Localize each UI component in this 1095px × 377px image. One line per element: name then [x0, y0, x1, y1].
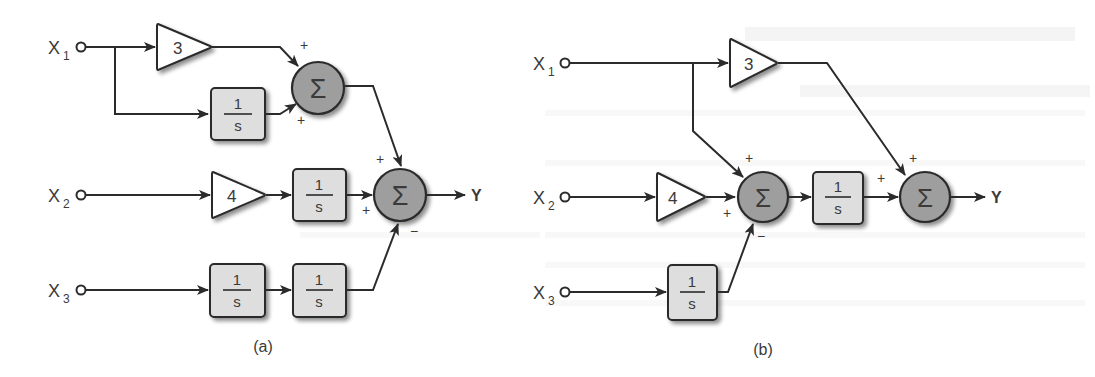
- block-diagram-figure: X 1 X 2 X 3 3 1 s: [0, 0, 1095, 377]
- svg-text:1: 1: [548, 65, 555, 79]
- integrator-numerator: 1: [315, 271, 323, 288]
- sum-symbol: Σ: [310, 74, 327, 104]
- svg-text:2: 2: [548, 199, 555, 213]
- integrator-numerator: 1: [688, 273, 696, 290]
- input-x2-label: X 2: [48, 186, 70, 211]
- input-x3-label: X 3: [533, 283, 555, 308]
- caption-a: (a): [253, 338, 273, 355]
- diagram-a: X 1 X 2 X 3 3 1 s: [48, 24, 482, 355]
- gain-value-3: 3: [744, 55, 753, 74]
- svg-text:X: X: [533, 188, 545, 208]
- sign-plus: +: [723, 205, 731, 221]
- gain-value-4: 4: [227, 187, 236, 206]
- gain-block-3: [157, 24, 211, 70]
- svg-text:2: 2: [63, 197, 70, 211]
- sign-plus: +: [300, 37, 308, 53]
- input-terminal-x1: [561, 59, 570, 68]
- sum-symbol: Σ: [917, 183, 933, 213]
- sign-plus: +: [877, 170, 885, 186]
- sign-plus: +: [745, 150, 753, 166]
- svg-text:1: 1: [63, 49, 70, 63]
- wire-int-sum1: [266, 104, 296, 114]
- gain-block-4: [657, 173, 705, 221]
- gain-value-4: 4: [668, 189, 677, 208]
- gain-block-3: [730, 39, 777, 87]
- integrator-denominator: s: [688, 295, 696, 312]
- wire-gain3-sum1: [211, 47, 298, 66]
- integrator-numerator: 1: [315, 176, 323, 193]
- sum-symbol: Σ: [392, 181, 409, 211]
- integrator-numerator: 1: [234, 95, 242, 112]
- integrator-numerator: 1: [834, 178, 842, 195]
- integrator-denominator: s: [834, 200, 842, 217]
- sign-plus: +: [376, 151, 384, 167]
- input-x3-label: X 3: [48, 281, 70, 306]
- sign-plus: +: [362, 202, 370, 218]
- integrator-denominator: s: [315, 293, 323, 310]
- wire-gain3-sum2: [778, 63, 905, 175]
- sign-plus: +: [297, 112, 305, 128]
- input-x1-label: X 1: [48, 38, 70, 63]
- input-terminal-x1: [77, 43, 86, 52]
- sign-plus: +: [909, 150, 917, 166]
- wire-sum1-sum2: [345, 86, 401, 166]
- svg-text:X: X: [533, 283, 545, 303]
- input-terminal-x3: [561, 288, 570, 297]
- input-x1-label: X 1: [533, 54, 555, 79]
- integrator-denominator: s: [315, 198, 323, 215]
- integrator-denominator: s: [234, 117, 242, 134]
- sign-minus: −: [757, 228, 765, 244]
- gain-block-4: [212, 172, 265, 218]
- input-x2-label: X 2: [533, 188, 555, 213]
- sum-symbol: Σ: [755, 183, 771, 213]
- svg-text:X: X: [48, 281, 60, 301]
- output-y-label: Y: [471, 187, 482, 204]
- svg-text:X: X: [533, 54, 545, 74]
- gain-value-3: 3: [173, 39, 182, 58]
- input-terminal-x3: [77, 286, 86, 295]
- sign-minus: −: [410, 223, 418, 239]
- integrator-denominator: s: [233, 293, 241, 310]
- caption-b: (b): [753, 341, 773, 358]
- output-y-label: Y: [991, 189, 1002, 206]
- svg-text:3: 3: [548, 294, 555, 308]
- input-terminal-x2: [561, 193, 570, 202]
- input-terminal-x2: [77, 191, 86, 200]
- svg-text:X: X: [48, 38, 60, 58]
- svg-text:3: 3: [63, 292, 70, 306]
- integrator-numerator: 1: [233, 271, 241, 288]
- svg-text:X: X: [48, 186, 60, 206]
